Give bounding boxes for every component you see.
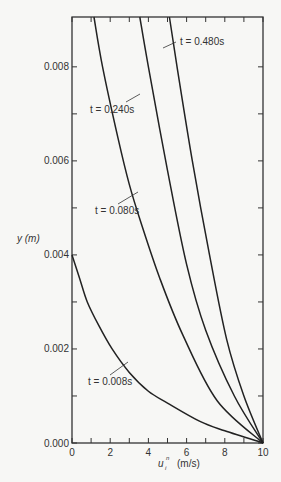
x-tick-label: 6	[184, 447, 190, 458]
x-axis-label-sup: n	[166, 455, 170, 461]
y-tick-label: 0.000	[44, 438, 69, 449]
curve-label-t080: t = 0.080s	[95, 205, 139, 216]
curve-label-t480: t = 0.480s	[180, 36, 224, 47]
curve-series-2	[140, 17, 263, 443]
leader-line-t240	[126, 94, 140, 102]
curve-label-t240: t = 0.240s	[90, 104, 134, 115]
x-axis-label: u i n (m/s)	[158, 455, 200, 471]
x-tick-label: 0	[69, 447, 75, 458]
y-axis-label: y (m)	[16, 233, 40, 244]
x-tick-label: 2	[107, 447, 113, 458]
curve-label-t008: t = 0.008s	[88, 376, 132, 387]
curve-series-3	[169, 17, 263, 443]
y-tick-label: 0.002	[44, 343, 69, 354]
x-tick-label: 8	[222, 447, 228, 458]
x-axis-label-unit: (m/s)	[177, 458, 200, 469]
curve-series-0	[72, 255, 263, 443]
y-tick-label: 0.006	[44, 155, 69, 166]
y-tick-label: 0.004	[44, 249, 69, 260]
x-tick-label: 10	[257, 447, 269, 458]
x-axis-label-base: u	[158, 458, 164, 469]
y-tick-label: 0.008	[44, 61, 69, 72]
chart: 02468100.0000.0020.0040.0060.008 t = 0.4…	[0, 0, 281, 482]
x-axis-label-sub: i	[165, 465, 167, 471]
x-tick-label: 4	[146, 447, 152, 458]
